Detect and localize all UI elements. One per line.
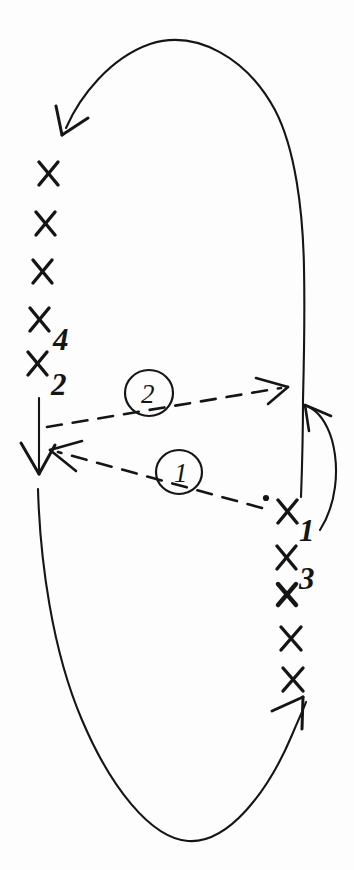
left-x-mark-2 (36, 212, 55, 235)
dashed-arrow-two (47, 378, 288, 427)
step-two-label: 2 (141, 379, 155, 409)
left-x-mark-4 (30, 308, 49, 331)
sketch-canvas: 4 2 1 3 2 1 (0, 0, 354, 870)
right-x-mark-2 (277, 546, 296, 569)
loop-top-arrowhead-icon (56, 106, 88, 135)
right-x-mark-1 (278, 500, 297, 523)
loop-right-lower-arc (301, 400, 303, 497)
left-x-mark-1 (39, 162, 58, 185)
dashed-arrow-one (50, 441, 269, 508)
left-x-mark-3 (33, 260, 52, 283)
right-x-mark-5 (283, 668, 303, 691)
right-x-mark-3 (278, 584, 296, 605)
hand-drawn-diagram: 4 2 1 3 2 1 (0, 0, 354, 870)
loop-bottom-arrowhead-icon (272, 697, 303, 729)
loop-left-lower-arc (38, 489, 306, 841)
x4-subscript: 4 (52, 322, 69, 357)
right-x-mark-4 (281, 627, 301, 650)
loop-left-arrowhead-icon (21, 398, 55, 474)
x1-subscript: 1 (299, 513, 315, 548)
x3-subscript: 3 (298, 561, 315, 596)
return-curve-arrow (305, 405, 336, 530)
left-x-mark-5 (28, 352, 47, 375)
x2-subscript: 2 (50, 367, 67, 402)
dashed-arrow-one-origin-dot (263, 495, 269, 501)
loop-upper-arc (66, 40, 304, 400)
step-one-label: 1 (174, 458, 188, 488)
